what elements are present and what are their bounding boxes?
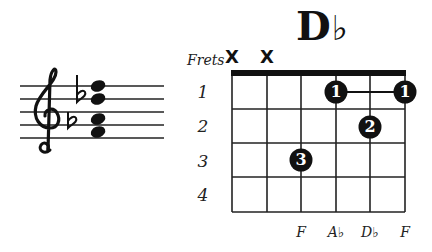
note-label-string-4: A♭ bbox=[321, 224, 351, 240]
finger-number-2: 2 bbox=[360, 117, 380, 137]
finger-number-3: 3 bbox=[291, 150, 311, 170]
nut bbox=[231, 70, 406, 76]
finger-number-1b: 1 bbox=[395, 82, 415, 102]
note-label-string-3: F bbox=[286, 224, 316, 240]
finger-number-1a: 1 bbox=[326, 82, 346, 102]
chord-notes bbox=[89, 78, 107, 139]
note-label-string-5: D♭ bbox=[355, 224, 385, 240]
key-signature bbox=[68, 75, 85, 128]
note-label-string-6: F bbox=[390, 224, 420, 240]
treble-clef-icon bbox=[35, 69, 58, 152]
